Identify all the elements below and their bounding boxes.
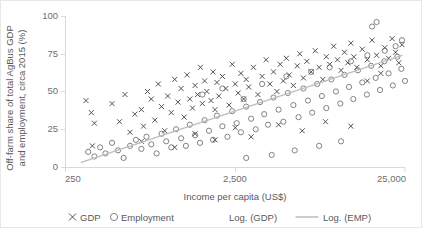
chart-legend: GDP Employment Log. (GDP) Log. (EMP)	[69, 212, 371, 223]
data-point-x	[335, 57, 340, 62]
y-tick-label-100: 100	[42, 10, 58, 21]
data-point-x	[360, 47, 365, 52]
data-point-x	[297, 51, 302, 56]
legend-label-employment: Employment	[121, 212, 174, 223]
legend-label-log-emp: Log. (EMP)	[323, 212, 371, 223]
data-point-o	[364, 92, 369, 97]
data-point-x	[317, 65, 322, 70]
data-point-x	[324, 54, 329, 59]
data-point-x	[193, 83, 198, 88]
data-point-x	[209, 98, 214, 103]
data-point-x	[345, 60, 350, 65]
data-point-x	[378, 71, 383, 76]
x-axis-tick-labels: 250 2,500 25,000	[65, 173, 406, 184]
data-point-x	[169, 110, 174, 115]
legend-item-log-gdp[interactable]: Log. (GDP)	[229, 212, 277, 223]
data-point-x	[202, 78, 207, 83]
data-point-x	[216, 94, 221, 99]
data-point-o	[319, 93, 324, 98]
data-point-x	[339, 68, 344, 73]
data-point-x	[291, 83, 296, 88]
data-point-o	[360, 80, 365, 85]
y-tick-label-50: 50	[47, 85, 58, 96]
data-point-x	[89, 110, 94, 115]
data-point-x	[331, 44, 336, 49]
data-point-o	[390, 83, 395, 88]
data-point-x	[141, 124, 146, 129]
data-point-o	[338, 101, 343, 106]
data-point-o	[262, 112, 267, 117]
data-point-o	[86, 149, 91, 154]
legend-label-gdp: GDP	[80, 212, 101, 223]
data-point-x	[227, 103, 232, 108]
data-point-o	[238, 130, 243, 135]
x-tick-label-2500: 2,500	[223, 173, 247, 184]
data-point-x	[301, 75, 306, 80]
data-point-x	[281, 78, 286, 83]
data-point-x	[230, 62, 235, 67]
data-point-x	[190, 106, 195, 111]
data-point-x	[390, 36, 395, 41]
y-axis-tick-labels: 100 75 50 25 0	[42, 10, 58, 172]
data-point-x	[198, 65, 203, 70]
data-point-x	[271, 69, 276, 74]
data-point-o	[276, 107, 281, 112]
y-axis-title-line2: and employment, circa 2015 (%)	[16, 30, 27, 167]
data-point-o	[234, 121, 239, 126]
legend-item-employment[interactable]: Employment	[110, 212, 174, 223]
data-point-x	[378, 63, 383, 68]
data-point-x	[176, 100, 181, 105]
data-point-o	[260, 81, 265, 86]
data-point-o	[281, 119, 286, 124]
data-point-x	[132, 112, 137, 117]
data-point-o	[377, 87, 382, 92]
data-point-o	[292, 148, 297, 153]
data-point-x	[246, 84, 251, 89]
data-point-x	[274, 89, 279, 94]
data-point-o	[200, 92, 205, 97]
data-point-o	[265, 122, 270, 127]
data-point-o	[365, 53, 370, 58]
y-tick-label-0: 0	[53, 161, 58, 172]
data-point-x	[370, 38, 375, 43]
data-point-x	[179, 86, 184, 91]
data-point-x	[313, 48, 318, 53]
data-point-o	[327, 65, 332, 70]
data-point-x	[110, 101, 115, 106]
axes-lines	[61, 16, 405, 172]
x-marker-icon	[69, 214, 76, 221]
data-point-o	[133, 137, 138, 142]
data-point-x	[172, 77, 177, 82]
data-point-o	[338, 139, 343, 144]
data-point-o	[179, 136, 184, 141]
legend-label-log-gdp: Log. (GDP)	[229, 212, 277, 223]
data-point-o	[399, 66, 404, 71]
data-point-x	[323, 119, 328, 124]
data-point-o	[220, 124, 225, 129]
data-point-o	[296, 115, 301, 120]
data-point-o	[149, 142, 154, 147]
data-point-o	[305, 98, 310, 103]
legend-item-gdp[interactable]: GDP	[69, 212, 101, 223]
data-point-x	[264, 57, 269, 62]
data-point-x	[214, 80, 219, 85]
data-point-x	[145, 89, 150, 94]
data-point-o	[399, 38, 404, 43]
data-point-o	[393, 44, 398, 49]
data-point-x	[374, 53, 379, 58]
data-point-o	[402, 78, 407, 83]
data-point-x	[295, 63, 300, 68]
data-point-x	[251, 65, 256, 70]
data-point-x	[92, 121, 97, 126]
data-point-x	[159, 104, 164, 109]
series-employment	[86, 19, 408, 160]
data-point-x	[244, 77, 249, 82]
trendline-layer	[81, 55, 402, 162]
o-marker-icon	[110, 213, 117, 220]
data-point-x	[365, 78, 370, 83]
legend-item-log-emp[interactable]: Log. (EMP)	[296, 212, 371, 223]
data-point-x	[348, 124, 353, 129]
data-point-o	[164, 139, 169, 144]
data-point-x	[304, 59, 309, 64]
x-tick-label-250: 250	[65, 173, 81, 184]
